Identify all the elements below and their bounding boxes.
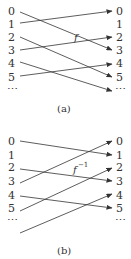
left-label: 3 xyxy=(8,44,15,57)
right-label: 2 xyxy=(116,31,123,44)
right-label: 0 xyxy=(116,5,123,18)
arrow-0-to-3 xyxy=(20,12,112,50)
right-label: ⋯ xyxy=(115,214,126,227)
arrow-4-to-5 xyxy=(20,196,112,208)
caption-b: (b) xyxy=(57,245,71,256)
arrow-4-to-ellipsis xyxy=(20,62,112,91)
arrows-b xyxy=(20,141,112,233)
left-column-a: 0 1 2 3 4 5 ⋯ xyxy=(7,5,18,96)
arrow-5-to-2 xyxy=(20,168,112,211)
caption-a: (a) xyxy=(57,103,71,114)
left-label: 4 xyxy=(8,189,15,202)
arrow-2-to-5 xyxy=(20,37,112,77)
right-column-b: 0 1 2 3 4 5 ⋯ xyxy=(115,135,126,227)
right-label: 3 xyxy=(116,175,123,188)
function-superscript: −1 xyxy=(78,161,88,169)
left-label: 4 xyxy=(8,57,15,70)
left-label: 3 xyxy=(8,175,15,188)
arrow-ellipsis-to-4 xyxy=(20,194,112,233)
left-column-b: 0 1 2 3 4 5 ⋯ xyxy=(7,135,18,227)
arrow-5-to-4 xyxy=(20,64,112,76)
arrow-1-to-0 xyxy=(20,11,112,23)
arrow-3-to-2 xyxy=(20,37,112,50)
arrow-3-to-0 xyxy=(20,141,112,183)
left-label: 0 xyxy=(8,5,15,18)
left-label: 2 xyxy=(8,161,15,174)
right-column-a: 0 1 2 3 4 5 ⋯ xyxy=(115,5,126,96)
arrow-0-to-1 xyxy=(20,141,112,155)
left-label: ⋯ xyxy=(7,83,18,96)
left-label: 0 xyxy=(8,135,15,148)
function-label-f-inverse: f −1 xyxy=(72,161,88,175)
left-label: 1 xyxy=(8,18,15,31)
right-label: 3 xyxy=(116,44,123,57)
arrow-2-to-3 xyxy=(20,169,112,181)
right-label: 0 xyxy=(116,135,123,148)
right-label: 1 xyxy=(116,18,123,31)
right-label: 2 xyxy=(116,161,123,174)
right-label: 4 xyxy=(116,189,123,202)
right-label: 4 xyxy=(116,57,123,70)
diagram-canvas: 0 1 2 3 4 5 ⋯ 0 1 2 3 4 5 ⋯ f (a) xyxy=(0,0,131,259)
arrows-a xyxy=(20,11,112,91)
diagram-b: 0 1 2 3 4 5 ⋯ 0 1 2 3 4 5 ⋯ f −1 xyxy=(7,135,126,256)
left-label: 2 xyxy=(8,31,15,44)
diagram-a: 0 1 2 3 4 5 ⋯ 0 1 2 3 4 5 ⋯ f (a) xyxy=(7,5,126,114)
left-label: ⋯ xyxy=(7,214,18,227)
right-label: ⋯ xyxy=(115,83,126,96)
